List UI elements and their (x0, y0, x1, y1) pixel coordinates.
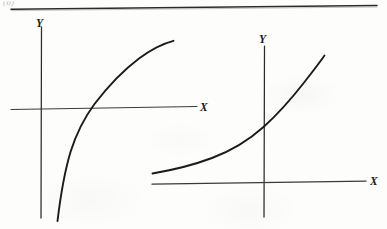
left-x-axis-label: X (199, 101, 208, 113)
left-figure-group: Y X (11, 17, 208, 221)
left-y-axis-label: Y (36, 17, 44, 29)
right-y-axis (264, 46, 265, 217)
left-x-axis (11, 107, 197, 110)
logarithmic-curve (58, 41, 174, 221)
right-x-axis-label: X (369, 175, 378, 187)
left-y-axis (41, 27, 42, 218)
figure-canvas: Y X Y X (0, 0, 387, 229)
right-x-axis (152, 181, 366, 184)
right-figure-group: Y X (152, 33, 378, 217)
exponential-curve (153, 56, 325, 174)
figure-page: (b) Y X Y X (0, 0, 387, 229)
right-y-axis-label: Y (259, 33, 267, 45)
